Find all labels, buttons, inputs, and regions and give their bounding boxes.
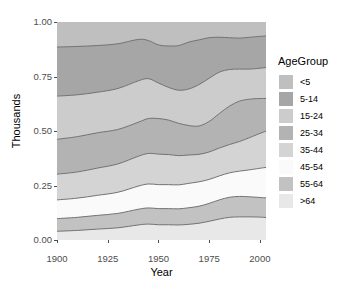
plot-panel <box>57 22 266 240</box>
y-tick-label: 0.75 <box>16 72 52 82</box>
legend-label: 5-14 <box>300 94 318 104</box>
legend-label: 15-24 <box>300 111 323 121</box>
x-tick-label: 2000 <box>240 253 280 264</box>
x-tick-label: 1925 <box>88 253 128 264</box>
legend-swatch <box>278 193 294 209</box>
legend-label: 25-34 <box>300 128 323 138</box>
area-chart: Thousands Year 0.000.250.500.751.00 1900… <box>0 0 345 292</box>
legend-items: <55-1415-2425-3435-4445-5455-64>64 <box>278 73 345 209</box>
x-tick-mark <box>57 240 58 243</box>
legend-item[interactable]: <5 <box>278 73 345 90</box>
legend-swatch <box>278 91 294 107</box>
legend-label: 45-54 <box>300 162 323 172</box>
y-tick-mark <box>54 22 57 23</box>
legend-item[interactable]: 25-34 <box>278 124 345 141</box>
legend-item[interactable]: 5-14 <box>278 90 345 107</box>
x-axis-title: Year <box>57 266 266 278</box>
legend-swatch <box>278 74 294 90</box>
legend-item[interactable]: 55-64 <box>278 175 345 192</box>
x-axis-tick-labels: 19001925195019752000 <box>0 247 345 261</box>
y-tick-label: 0.25 <box>16 181 52 191</box>
legend-label: >64 <box>300 196 315 206</box>
legend-swatch <box>278 159 294 175</box>
legend-item[interactable]: >64 <box>278 192 345 209</box>
legend-swatch <box>278 125 294 141</box>
y-tick-mark <box>54 77 57 78</box>
x-tick-mark <box>260 240 261 243</box>
y-tick-label: 1.00 <box>16 17 52 27</box>
x-tick-mark <box>108 240 109 243</box>
legend-swatch <box>278 142 294 158</box>
x-tick-label: 1950 <box>138 253 178 264</box>
legend-label: <5 <box>300 77 310 87</box>
y-tick-mark <box>54 131 57 132</box>
legend: AgeGroup <55-1415-2425-3435-4445-5455-64… <box>278 55 345 209</box>
x-tick-mark <box>209 240 210 243</box>
legend-swatch <box>278 176 294 192</box>
y-tick-label: 0.50 <box>16 126 52 136</box>
legend-label: 55-64 <box>300 179 323 189</box>
x-tick-label: 1975 <box>189 253 229 264</box>
y-tick-mark <box>54 186 57 187</box>
legend-item[interactable]: 35-44 <box>278 141 345 158</box>
legend-swatch <box>278 108 294 124</box>
legend-item[interactable]: 45-54 <box>278 158 345 175</box>
stacked-area-svg <box>57 22 266 240</box>
x-tick-mark <box>158 240 159 243</box>
legend-item[interactable]: 15-24 <box>278 107 345 124</box>
y-tick-label: 0.00 <box>16 235 52 245</box>
legend-label: 35-44 <box>300 145 323 155</box>
x-tick-label: 1900 <box>37 253 77 264</box>
legend-title: AgeGroup <box>278 55 345 67</box>
